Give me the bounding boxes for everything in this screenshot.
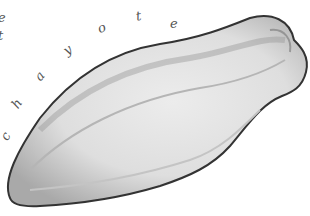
caption-letter-o: o [96, 19, 109, 36]
caption-letter-t: t [135, 8, 144, 24]
caption-letter-h: h [8, 96, 25, 111]
caption-letter-y: y [59, 41, 75, 58]
chayote-body [8, 16, 307, 206]
caption-letter-c: c [0, 129, 14, 143]
chayote-illustration: e t c h a y o t e [0, 0, 310, 216]
caption-letter-a: a [31, 68, 47, 84]
caption-letter-e: e [170, 16, 178, 31]
caption-letter-edge-t: t [0, 28, 4, 43]
chayote-drawing: e t c h a y o t e [0, 0, 310, 216]
caption-letter-edge-e: e [0, 10, 6, 25]
